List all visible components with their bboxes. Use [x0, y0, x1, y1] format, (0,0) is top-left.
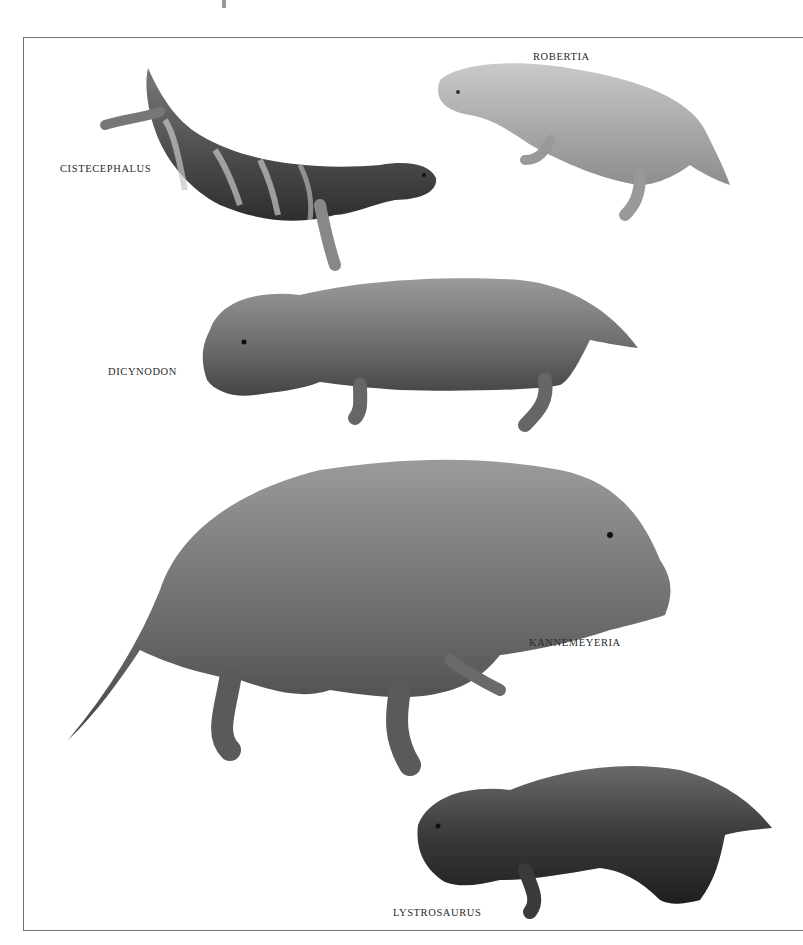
lystrosaurus-illustration [417, 766, 772, 912]
kannemeyeria-illustration [68, 460, 670, 765]
label-dicynodon: DICYNODON [108, 366, 177, 377]
robertia-illustration [438, 63, 730, 215]
cistecephalus-illustration [105, 68, 436, 265]
label-robertia: ROBERTIA [533, 51, 590, 62]
dicynodon-illustration [203, 278, 638, 425]
label-cistecephalus: CISTECEPHALUS [60, 163, 151, 174]
label-kannemeyeria: KANNEMEYERIA [529, 637, 621, 648]
label-lystrosaurus: LYSTROSAURUS [393, 907, 481, 918]
